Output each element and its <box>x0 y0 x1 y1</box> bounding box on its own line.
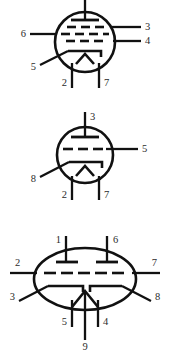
tube-2-pin-label-8: 8 <box>31 173 36 184</box>
tube-3-pin-label-6: 6 <box>113 234 118 245</box>
tube-1-pin-label-4: 4 <box>145 35 151 46</box>
tube-2-pin-label-5: 5 <box>142 143 147 154</box>
tube-3-dual-triode: 1 6 2 7 3 8 5 4 9 <box>10 234 161 352</box>
tube-1-pin-label-5: 5 <box>31 61 36 72</box>
tube-1-pin-label-6: 6 <box>21 28 26 39</box>
tube-1-pin-label-7: 7 <box>104 77 109 88</box>
tube-1-pentode: 3 4 6 5 2 7 <box>21 0 151 88</box>
tube-3-pin-label-2: 2 <box>15 257 20 268</box>
tube-1-pin-label-3: 3 <box>145 21 150 32</box>
tube-3-pin-label-8: 8 <box>155 291 160 302</box>
tube-2-triode: 3 5 8 2 7 <box>31 111 148 200</box>
tube-3-pin-label-5: 5 <box>62 316 67 327</box>
tube-2-pin-label-3: 3 <box>90 111 95 122</box>
tube-1-pin-label-2: 2 <box>62 77 67 88</box>
tube-2-filament <box>76 166 94 176</box>
tube-2-pin-label-2: 2 <box>62 189 67 200</box>
tube-2-pin-label-7: 7 <box>104 189 109 200</box>
tube-3-cathode-right <box>90 286 122 292</box>
tube-3-pin-label-3: 3 <box>10 291 15 302</box>
tube-3-cathode-left <box>48 286 83 292</box>
tube-1-filament <box>76 54 94 64</box>
tube-pinout-diagram: 3 4 6 5 2 7 <box>0 0 171 354</box>
tube-3-pin-label-9: 9 <box>82 341 87 352</box>
tube-diagram-canvas: 3 4 6 5 2 7 <box>0 0 171 354</box>
tube-3-pin-label-1: 1 <box>56 234 61 245</box>
tube-3-pin-label-4: 4 <box>103 316 109 327</box>
tube-3-pin-label-7: 7 <box>152 257 157 268</box>
